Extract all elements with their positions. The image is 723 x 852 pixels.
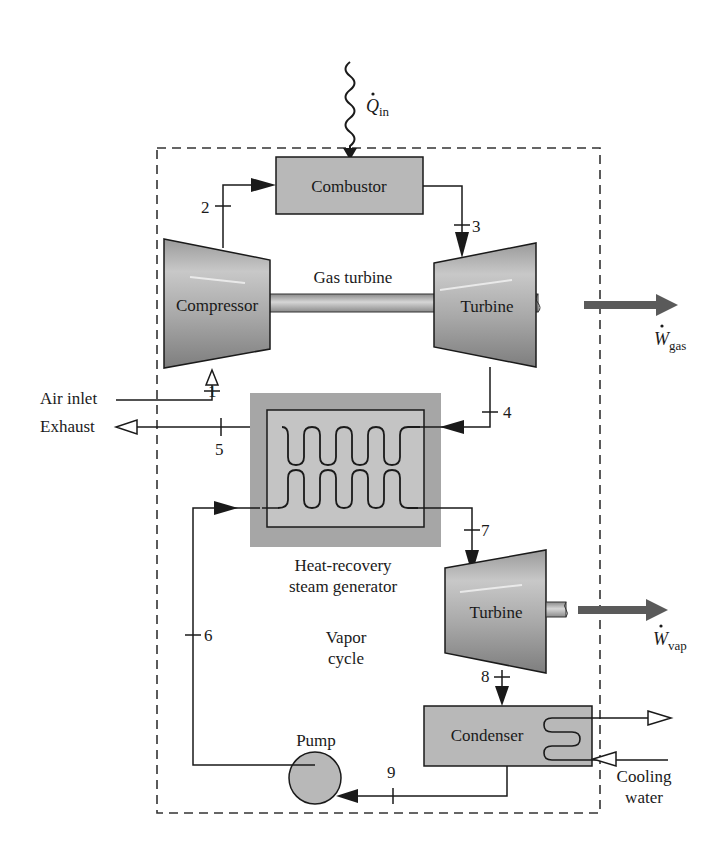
pump-label: Pump <box>296 731 336 750</box>
cooling-water-label-line2: water <box>625 788 663 807</box>
compressor-label: Compressor <box>176 296 259 315</box>
state-3: 3 <box>472 217 481 236</box>
state-9: 9 <box>387 763 396 782</box>
condenser-label: Condenser <box>451 726 524 745</box>
state-2: 2 <box>201 198 210 217</box>
dot-accent <box>660 324 663 327</box>
cooling-water-in-arrow <box>593 752 616 766</box>
gas-turbine-label: Gas turbine <box>314 268 393 287</box>
hrsg-label-line1: Heat-recovery <box>294 556 392 575</box>
combustor-label: Combustor <box>311 177 387 196</box>
dot-accent <box>659 624 662 627</box>
vapor-cycle-label-line2: cycle <box>328 649 364 668</box>
heat-input-icon <box>343 62 357 160</box>
state-6: 6 <box>204 626 213 645</box>
work-gas-label: Wgas <box>654 329 686 353</box>
pump[interactable] <box>289 752 341 804</box>
dot-accent <box>371 92 374 95</box>
work-output-gas-arrow <box>584 294 678 316</box>
exhaust-label: Exhaust <box>40 417 95 436</box>
state-7: 7 <box>481 521 490 540</box>
work-vap-label: Wvap <box>653 629 687 653</box>
work-output-vap-arrow <box>578 599 668 621</box>
state-5: 5 <box>215 440 224 459</box>
state-8: 8 <box>481 667 490 686</box>
cooling-water-label-line1: Cooling <box>617 767 672 786</box>
cooling-water-out-arrow <box>648 711 671 725</box>
plant-schematic: Qin Combustor 2 3 Compressor Gas turbine… <box>0 0 723 852</box>
hrsg-label-line2: steam generator <box>289 577 397 596</box>
gas-turbine-turbine-label: Turbine <box>460 297 513 316</box>
heat-in-label: Qin <box>366 96 390 119</box>
vapor-turbine-label: Turbine <box>469 603 522 622</box>
vapor-cycle-label-line1: Vapor <box>326 628 367 647</box>
state-1: 1 <box>208 382 217 401</box>
state-4: 4 <box>503 403 512 422</box>
air-inlet-label: Air inlet <box>40 389 97 408</box>
